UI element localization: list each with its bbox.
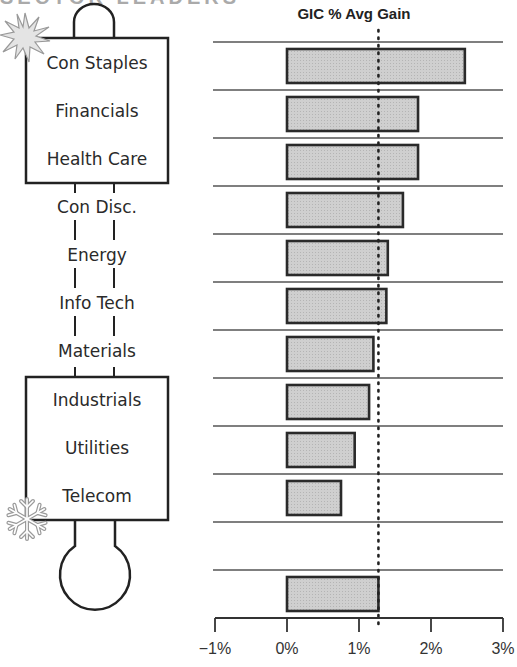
sector-thermometer-chart: SECTOR LEADERS GIC % Avg Gain bbox=[0, 0, 517, 667]
x-tick-label: −1% bbox=[190, 640, 240, 658]
bar-chart-plot bbox=[0, 0, 517, 667]
x-axis bbox=[215, 618, 503, 632]
bar-telecom bbox=[287, 481, 341, 515]
bar-info-tech bbox=[287, 289, 386, 323]
bar-con-staples bbox=[287, 49, 465, 83]
bar-average bbox=[287, 577, 378, 611]
bar-financials bbox=[287, 97, 418, 131]
x-tick-label: 1% bbox=[334, 640, 384, 658]
bar-con-disc- bbox=[287, 193, 403, 227]
bar-energy bbox=[287, 241, 388, 275]
bar-utilities bbox=[287, 433, 355, 467]
bar-industrials bbox=[287, 385, 369, 419]
bar-materials bbox=[287, 337, 373, 371]
x-tick-label: 0% bbox=[262, 640, 312, 658]
x-tick-label: 3% bbox=[478, 640, 517, 658]
bar-health-care bbox=[287, 145, 418, 179]
x-tick-label: 2% bbox=[406, 640, 456, 658]
